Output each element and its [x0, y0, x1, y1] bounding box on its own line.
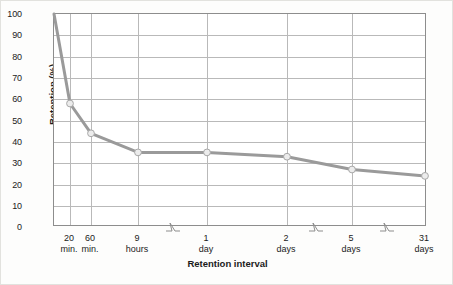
data-point-60min — [88, 130, 95, 137]
x-tick-label-5days: 5 days — [321, 233, 381, 254]
x-tick-1day-line2: day — [176, 244, 236, 255]
y-tick-label-10: 10 — [0, 201, 22, 211]
y-tick-label-20: 20 — [0, 180, 22, 190]
x-tick-31days-line1: 31 — [419, 233, 429, 243]
plot-area — [53, 13, 426, 226]
x-tick-60min-line1: 60 — [85, 233, 95, 243]
data-point-9hours — [135, 149, 142, 156]
y-tick-label-90: 90 — [0, 30, 22, 40]
y-tick-label-60: 60 — [0, 94, 22, 104]
x-tick-2days-line2: days — [256, 244, 316, 255]
x-tick-9hours-line2: hours — [107, 244, 167, 255]
data-point-5days — [349, 166, 356, 173]
x-tick-label-31days: 31 days — [394, 233, 453, 254]
x-tick-label-9hours: 9 hours — [107, 233, 167, 254]
data-point-31days — [422, 173, 429, 180]
x-tick-5days-line2: days — [321, 244, 381, 255]
axis-break-glyph — [379, 220, 395, 234]
data-point-2days — [284, 153, 291, 160]
x-tick-5days-line1: 5 — [348, 233, 353, 243]
data-point-1day — [204, 149, 211, 156]
x-tick-label-1day: 1 day — [176, 233, 236, 254]
y-tick-label-50: 50 — [0, 116, 22, 126]
x-tick-1day-line1: 1 — [203, 233, 208, 243]
retention-line — [54, 14, 425, 176]
x-axis-label: Retention interval — [1, 258, 453, 269]
y-tick-label-100: 100 — [0, 9, 22, 19]
axis-break-2 — [308, 220, 324, 234]
chart-figure: Retention (%) 100 90 80 70 60 50 40 30 2… — [0, 0, 453, 285]
y-tick-label-40: 40 — [0, 137, 22, 147]
axis-break-glyph — [165, 220, 181, 234]
y-tick-label-80: 80 — [0, 52, 22, 62]
x-tick-label-2days: 2 days — [256, 233, 316, 254]
x-tick-9hours-line1: 9 — [134, 233, 139, 243]
y-tick-label-0: 0 — [0, 222, 22, 232]
axis-break-glyph — [308, 220, 324, 234]
data-point-20min — [67, 100, 74, 107]
x-tick-31days-line2: days — [394, 244, 453, 255]
y-tick-label-70: 70 — [0, 73, 22, 83]
retention-curve — [54, 14, 427, 227]
y-tick-label-30: 30 — [0, 158, 22, 168]
axis-break-3 — [379, 220, 395, 234]
x-tick-2days-line1: 2 — [283, 233, 288, 243]
axis-break-1 — [165, 220, 181, 234]
data-point-markers — [67, 100, 429, 179]
